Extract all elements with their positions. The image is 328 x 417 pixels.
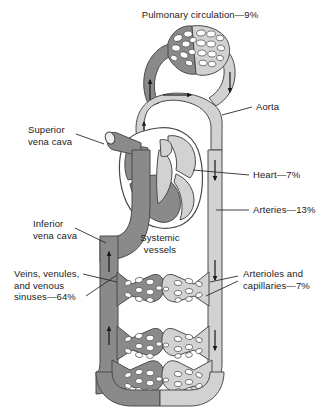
label-aorta: Aorta [256, 101, 279, 113]
circulatory-system-diagram: Pulmonary circulation—9% Aorta Heart—7% … [0, 0, 328, 417]
label-arterioles-capillaries: Arterioles and capillaries—7% [243, 268, 310, 291]
vessel-system [96, 26, 235, 406]
label-pulmonary-circulation: Pulmonary circulation—9% [112, 9, 288, 21]
leader-aorta [222, 107, 252, 115]
label-heart: Heart—7% [253, 169, 300, 181]
label-arteries: Arteries—13% [253, 204, 315, 216]
label-superior-vena-cava: Superior vena cava [28, 124, 72, 147]
systemic-capillary-bed-2 [117, 326, 209, 360]
label-inferior-vena-cava: Inferior vena cava [33, 218, 77, 241]
aortic-valve [160, 139, 172, 156]
leader-superior-vena-cava [76, 134, 104, 144]
label-veins-venules-sinuses: Veins, venules, and venous sinuses—64% [14, 268, 79, 303]
label-systemic-vessels: Systemic vessels [125, 232, 195, 255]
systemic-capillary-bed-1 [117, 272, 209, 306]
